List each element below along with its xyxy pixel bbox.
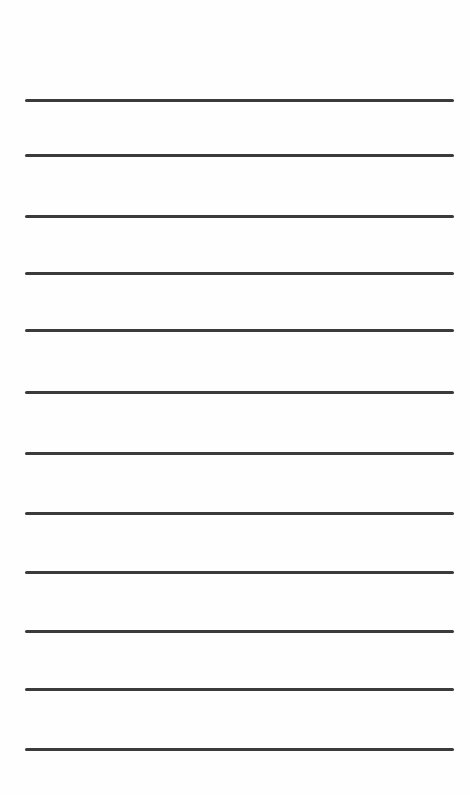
ruled-line: [25, 748, 454, 751]
ruled-line: [25, 391, 454, 394]
ruled-line: [25, 99, 454, 102]
ruled-line: [25, 630, 454, 633]
ruled-line: [25, 215, 454, 218]
ruled-line: [25, 512, 454, 515]
ruled-line: [25, 452, 454, 455]
ruled-paper-page: [0, 0, 470, 795]
ruled-line: [25, 272, 454, 275]
ruled-line: [25, 329, 454, 332]
ruled-line: [25, 571, 454, 574]
ruled-line: [25, 688, 454, 691]
ruled-line: [25, 154, 454, 157]
